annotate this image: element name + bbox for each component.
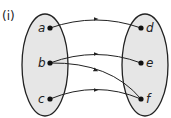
element-dot-b [47, 60, 52, 65]
element-label-c: c [38, 92, 45, 106]
element-dot-c [47, 96, 52, 101]
codomain-set-ellipse [122, 14, 168, 116]
element-label-a: a [38, 21, 45, 35]
element-dot-a [47, 25, 52, 30]
figure-label: (i) [2, 9, 15, 23]
mapping-arrow-a-d [50, 20, 141, 28]
element-dot-d [138, 25, 143, 30]
element-dot-f [138, 96, 143, 101]
element-label-d: d [146, 21, 154, 35]
element-label-e: e [146, 56, 153, 70]
element-dot-e [138, 60, 143, 65]
mapping-diagram: (i) a b c d e f [0, 0, 171, 118]
element-label-b: b [38, 56, 46, 70]
